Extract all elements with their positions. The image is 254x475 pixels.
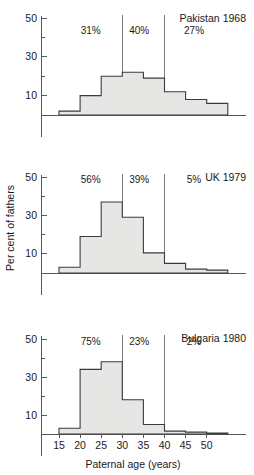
panel-group: 10305031%40%27%Pakistan 196810305056%39%… (25, 12, 246, 456)
percent-annotation: 27% (184, 25, 204, 36)
x-axis-title-text: Paternal age (years) (85, 458, 180, 470)
percent-annotation: 5% (187, 174, 202, 185)
panel-1: 10305031%40%27%Pakistan 1968 (25, 12, 246, 137)
y-tick-label: 50 (25, 171, 37, 183)
panel-title-2: UK 1979 (205, 171, 246, 183)
panel-2: 10305056%39%5%UK 1979 (25, 171, 246, 295)
histogram-figure: Per cent of fathers 10305031%40%27%Pakis… (0, 0, 254, 475)
y-tick-label: 30 (25, 371, 37, 383)
x-tick-label: 30 (116, 439, 128, 451)
x-tick-label: 35 (138, 439, 150, 451)
y-tick-label: 30 (25, 209, 37, 221)
x-tick-label: 50 (201, 439, 213, 451)
x-tick-label: 40 (159, 439, 171, 451)
panel-3: 10305075%23%2%Bulgaria 1980 (25, 332, 246, 456)
panel-title-1: Pakistan 1968 (179, 12, 246, 24)
y-tick-label: 50 (25, 333, 37, 345)
y-tick-label: 10 (25, 247, 37, 259)
y-axis-title: Per cent of fathers (4, 185, 16, 271)
histogram-bars (59, 202, 228, 273)
percent-annotation: 23% (129, 336, 149, 347)
y-tick-label: 30 (25, 50, 37, 62)
histogram-bars (59, 362, 228, 434)
y-tick-label: 50 (25, 12, 37, 24)
percent-annotation: 75% (81, 336, 101, 347)
x-tick-label: 15 (53, 439, 65, 451)
histogram-bars (59, 72, 228, 115)
x-tick-label: 45 (180, 439, 192, 451)
percent-annotation: 40% (129, 25, 149, 36)
x-tick-label: 25 (95, 439, 107, 451)
paternal-age-histograms-svg: Per cent of fathers 10305031%40%27%Pakis… (0, 0, 254, 475)
x-axis: 1520253035404550 (53, 434, 213, 451)
y-tick-label: 10 (25, 409, 37, 421)
percent-annotation: 56% (81, 174, 101, 185)
y-axis-title-text: Per cent of fathers (4, 185, 16, 271)
percent-annotation: 31% (81, 25, 101, 36)
x-tick-label: 20 (74, 439, 86, 451)
panel-title-3: Bulgaria 1980 (181, 332, 246, 344)
percent-annotation: 39% (129, 174, 149, 185)
y-tick-label: 10 (25, 89, 37, 101)
